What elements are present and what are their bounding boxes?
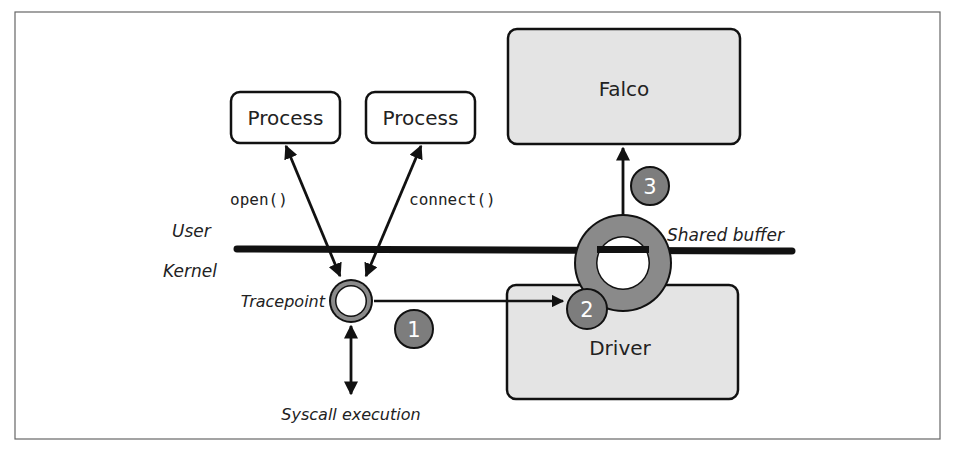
step-badge-3-number: 3 <box>643 175 656 199</box>
tracepoint-node <box>329 279 373 323</box>
falco-box: Falco <box>508 29 740 144</box>
process-box-1-label: Process <box>248 106 324 130</box>
process-box-1: Process <box>231 92 340 143</box>
user-space-label: User <box>172 221 212 241</box>
step-badge-3: 3 <box>631 167 669 205</box>
process-box-2-label: Process <box>383 106 459 130</box>
user-kernel-boundary-line <box>237 249 792 251</box>
step-badge-1: 1 <box>395 310 433 348</box>
driver-box-label: Driver <box>589 336 651 360</box>
step-badge-2: 2 <box>567 289 607 329</box>
open-call-label: open() <box>230 190 288 209</box>
tracepoint-label: Tracepoint <box>241 292 326 311</box>
shared-buffer-label: Shared buffer <box>667 225 785 245</box>
kernel-space-label: Kernel <box>163 261 217 281</box>
falco-box-label: Falco <box>599 77 650 101</box>
diagram-frame <box>15 12 940 439</box>
connect-call-label: connect() <box>409 190 496 209</box>
syscall-execution-label: Syscall execution <box>281 405 420 424</box>
process-box-2: Process <box>366 92 475 143</box>
step-badge-2-number: 2 <box>580 298 593 322</box>
step-badge-1-number: 1 <box>407 318 420 342</box>
falco-architecture-diagram: Process Process Falco Driver User Kernel… <box>0 0 954 450</box>
